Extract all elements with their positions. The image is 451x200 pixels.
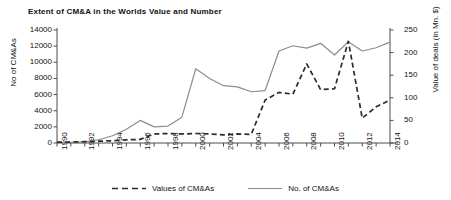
legend-item-values: Values of CM&As [112, 184, 214, 193]
series-line-values-of-cmas [57, 41, 390, 142]
series-line-no-of-cmas [57, 42, 390, 143]
legend-label-number: No. of CM&As [288, 184, 339, 193]
chart-legend: Values of CM&As No. of CM&As [0, 181, 451, 195]
plot-area [0, 0, 451, 200]
legend-label-values: Values of CM&As [152, 184, 214, 193]
chart-figure: Extent of CM&A in the Worlds Value and N… [0, 0, 451, 200]
legend-item-number: No. of CM&As [248, 184, 339, 193]
legend-swatch-dashed [112, 185, 146, 192]
legend-swatch-solid [248, 185, 282, 192]
